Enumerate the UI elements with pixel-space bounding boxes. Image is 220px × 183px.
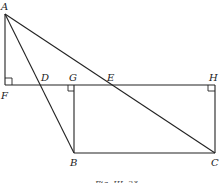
figure-caption: Fig. III. 23 (94, 179, 138, 183)
label-G: G (69, 72, 77, 83)
label-H: H (208, 72, 218, 83)
segment-AB (5, 14, 74, 153)
label-B: B (69, 157, 77, 168)
right-angle-marker-H (208, 85, 215, 91)
label-E: E (106, 72, 115, 83)
right-angle-marker-F (5, 78, 12, 85)
geometry-figure: A F D G E H B C Fig. III. 23 (0, 0, 220, 183)
label-C: C (211, 157, 219, 168)
label-F: F (0, 90, 9, 101)
segment-AC (5, 14, 215, 153)
label-D: D (40, 72, 49, 83)
right-angle-marker-G (68, 85, 74, 91)
label-A: A (0, 1, 8, 12)
